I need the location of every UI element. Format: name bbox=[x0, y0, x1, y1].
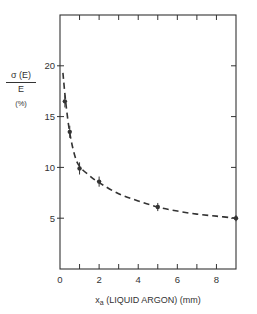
x-tick-label: 6 bbox=[175, 274, 180, 285]
y-axis-label: σ (E) E (%) bbox=[6, 70, 36, 109]
axes-box bbox=[60, 15, 236, 269]
x-tick-label: 8 bbox=[214, 274, 219, 285]
y-label-denominator: E bbox=[6, 84, 36, 95]
data-points bbox=[63, 95, 239, 221]
x-axis-label: xa (LIQUID ARGON) (mm) bbox=[95, 295, 200, 306]
y-tick-label: 5 bbox=[50, 213, 55, 224]
x-tick-label: 4 bbox=[136, 274, 141, 285]
data-point bbox=[63, 99, 67, 103]
y-tick-label: 20 bbox=[44, 60, 55, 71]
x-tick-label: 0 bbox=[57, 274, 62, 285]
y-label-unit: (%) bbox=[6, 98, 36, 109]
data-point bbox=[234, 216, 238, 220]
data-point bbox=[68, 130, 72, 134]
data-point bbox=[97, 179, 101, 183]
y-tick-label: 15 bbox=[44, 111, 55, 122]
x-tick-label: 2 bbox=[96, 274, 101, 285]
y-label-numerator: σ (E) bbox=[6, 70, 36, 83]
chart-canvas: 024685101520 xa (LIQUID ARGON) (mm) bbox=[0, 0, 257, 314]
fit-curve bbox=[63, 73, 236, 218]
data-point bbox=[77, 166, 81, 170]
y-tick-label: 10 bbox=[44, 162, 55, 173]
tick-labels: 024685101520 bbox=[44, 60, 219, 285]
plot-frame bbox=[60, 15, 236, 269]
axis-ticks bbox=[57, 15, 236, 269]
data-point bbox=[156, 205, 160, 209]
